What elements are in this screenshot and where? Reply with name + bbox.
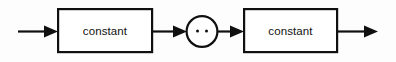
terminal-box-constant-right-label: constant [268, 25, 313, 37]
arrow-right-icon-1 [173, 26, 187, 38]
terminal-box-constant-left-label: constant [83, 25, 128, 37]
arrow-right-icon-2 [230, 26, 244, 38]
railroad-diagram: constant .. constant [0, 0, 396, 62]
range-dot-right-icon [205, 30, 208, 33]
arrow-right-icon-entry [44, 26, 58, 38]
arrow-right-icon-exit [364, 26, 378, 38]
operator-circle-range[interactable] [187, 16, 218, 47]
range-dot-left-icon [196, 30, 199, 33]
railroad-diagram-canvas: constant .. constant [0, 0, 396, 62]
